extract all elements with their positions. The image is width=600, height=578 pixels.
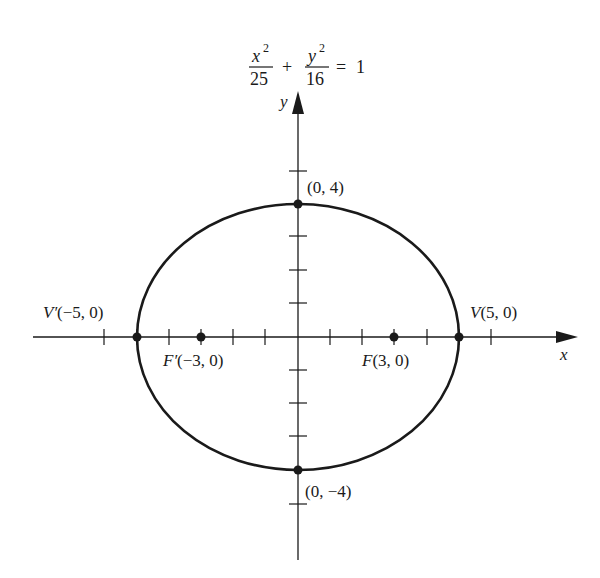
vertex-right-label: V(5, 0) [470, 303, 517, 322]
covertex-top-dot [294, 200, 303, 209]
y-axis-arrow-icon [292, 91, 304, 114]
y-axis-label: y [278, 92, 288, 111]
eq-plus: + [282, 57, 292, 77]
eq-x-denominator: 25 [250, 69, 268, 89]
eq-equals: = [336, 57, 346, 77]
vertex-left-label: V′(−5, 0) [43, 303, 104, 322]
focus-left-label: F′(−3, 0) [162, 351, 224, 370]
covertex-bottom-label: (0, −4) [305, 482, 351, 501]
vertex-left-dot [133, 333, 142, 342]
vertex-right-dot [455, 333, 464, 342]
eq-y-numerator: y [306, 46, 316, 66]
covertex-bottom-dot [294, 466, 303, 475]
covertex-top-label: (0, 4) [307, 178, 344, 197]
eq-x-exponent: 2 [263, 41, 269, 55]
ellipse-equation: x 2 25 + y 2 16 = 1 [249, 41, 365, 89]
focus-left-dot [197, 333, 206, 342]
focus-right-label: F(3, 0) [361, 351, 409, 370]
ellipse-diagram: x 2 25 + y 2 16 = 1 x y [0, 0, 600, 578]
x-axis-arrow-icon [556, 331, 578, 343]
eq-rhs: 1 [356, 57, 365, 77]
x-axis-label: x [559, 345, 568, 364]
eq-y-denominator: 16 [306, 69, 324, 89]
eq-x-numerator: x [251, 46, 260, 66]
eq-y-exponent: 2 [319, 41, 325, 55]
focus-right-dot [390, 333, 399, 342]
